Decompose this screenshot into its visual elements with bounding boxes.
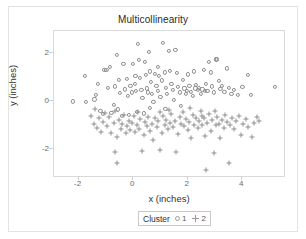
data-point-cluster-1 <box>175 71 179 75</box>
data-point-cluster-2 <box>203 168 208 173</box>
data-point-cluster-1 <box>236 93 240 97</box>
x-tick-label: 0 <box>130 179 134 188</box>
data-point-cluster-1 <box>164 86 168 90</box>
circle-marker-icon <box>175 216 180 221</box>
data-point-cluster-1 <box>204 81 208 85</box>
data-point-cluster-2 <box>156 119 161 124</box>
data-point-cluster-1 <box>113 84 117 88</box>
data-point-cluster-1 <box>192 69 196 73</box>
data-point-cluster-1 <box>118 91 122 95</box>
data-point-cluster-1 <box>232 88 236 92</box>
data-point-cluster-2 <box>211 151 216 156</box>
data-point-cluster-1 <box>172 98 176 102</box>
data-point-cluster-1 <box>207 60 211 64</box>
data-point-cluster-2 <box>112 109 117 114</box>
legend-entry-1: 1 <box>175 214 186 223</box>
data-point-cluster-1 <box>96 81 100 85</box>
data-point-cluster-2 <box>240 121 245 126</box>
data-point-cluster-1 <box>131 62 135 66</box>
data-point-cluster-2 <box>146 114 151 119</box>
data-point-cluster-1 <box>220 84 224 88</box>
data-point-cluster-2 <box>185 128 190 133</box>
data-point-cluster-1 <box>212 90 216 94</box>
data-point-cluster-1 <box>147 106 151 110</box>
data-point-cluster-2 <box>226 161 231 166</box>
data-point-cluster-1 <box>147 50 151 54</box>
data-point-cluster-1 <box>249 93 253 97</box>
data-point-cluster-1 <box>176 85 180 89</box>
data-point-cluster-1 <box>149 80 153 84</box>
data-point-cluster-2 <box>207 112 212 117</box>
data-point-cluster-2 <box>236 113 241 118</box>
data-point-cluster-1 <box>92 97 96 101</box>
y-tick-label: 2 <box>33 47 49 56</box>
data-point-cluster-2 <box>154 124 159 129</box>
data-point-cluster-1 <box>210 84 214 88</box>
data-point-cluster-2 <box>175 132 180 137</box>
data-point-cluster-2 <box>174 149 179 154</box>
data-point-cluster-1 <box>111 102 115 106</box>
data-point-cluster-1 <box>171 88 175 92</box>
data-point-cluster-1 <box>227 86 231 90</box>
data-point-cluster-1 <box>94 93 98 97</box>
data-point-cluster-2 <box>188 106 193 111</box>
data-point-cluster-2 <box>93 107 98 112</box>
plot-area <box>53 30 285 177</box>
data-point-cluster-1 <box>134 89 138 93</box>
data-point-cluster-2 <box>151 137 156 142</box>
data-point-cluster-2 <box>213 108 218 113</box>
chart-title: Multicollinearity <box>0 14 306 25</box>
data-point-cluster-1 <box>240 85 244 89</box>
data-point-cluster-2 <box>148 129 153 134</box>
data-point-cluster-1 <box>121 61 125 65</box>
data-point-cluster-2 <box>171 125 176 130</box>
scatter-points-layer <box>54 31 284 176</box>
data-point-cluster-1 <box>217 79 221 83</box>
data-point-cluster-2 <box>136 126 141 131</box>
data-point-cluster-1 <box>186 72 190 76</box>
data-point-cluster-1 <box>169 81 173 85</box>
legend-entry-2: 2 <box>192 214 205 223</box>
data-point-cluster-1 <box>215 57 219 61</box>
data-point-cluster-1 <box>150 92 154 96</box>
data-point-cluster-1 <box>144 73 148 77</box>
data-point-cluster-1 <box>181 78 185 82</box>
data-point-cluster-2 <box>221 125 226 130</box>
data-point-cluster-2 <box>141 133 146 138</box>
data-point-cluster-2 <box>107 115 112 120</box>
y-tick-mark <box>49 100 53 101</box>
data-point-cluster-1 <box>202 68 206 72</box>
data-point-cluster-1 <box>136 42 140 46</box>
legend: Cluster 12 <box>138 211 211 226</box>
data-point-cluster-1 <box>179 104 183 108</box>
data-point-cluster-2 <box>257 118 262 123</box>
data-point-cluster-2 <box>105 124 110 129</box>
data-point-cluster-1 <box>82 74 86 78</box>
data-point-cluster-1 <box>229 92 233 96</box>
data-point-cluster-1 <box>191 93 195 97</box>
data-point-cluster-2 <box>121 113 126 118</box>
data-point-cluster-2 <box>158 110 163 115</box>
data-point-cluster-1 <box>115 53 119 57</box>
x-tick-label: 4 <box>239 179 243 188</box>
data-point-cluster-1 <box>161 40 165 44</box>
data-point-cluster-2 <box>98 129 103 134</box>
data-point-cluster-1 <box>156 65 160 69</box>
data-point-cluster-1 <box>246 73 250 77</box>
data-point-cluster-2 <box>199 113 204 118</box>
chart-figure: Multicollinearity -202420-2 x (inches) y… <box>0 0 306 239</box>
data-point-cluster-2 <box>109 130 114 135</box>
y-axis-label: y (inches) <box>7 46 18 126</box>
legend-entries: 12 <box>175 214 206 223</box>
data-point-cluster-2 <box>234 119 239 124</box>
x-axis-label: x (inches) <box>53 193 285 204</box>
data-point-cluster-2 <box>249 134 254 139</box>
data-point-cluster-1 <box>133 74 137 78</box>
data-point-cluster-2 <box>166 108 171 113</box>
data-point-cluster-1 <box>154 84 158 88</box>
data-point-cluster-1 <box>224 66 228 70</box>
data-point-cluster-2 <box>159 130 164 135</box>
data-point-cluster-1 <box>84 100 88 104</box>
plus-marker-icon <box>192 215 199 222</box>
data-point-cluster-1 <box>168 69 172 73</box>
